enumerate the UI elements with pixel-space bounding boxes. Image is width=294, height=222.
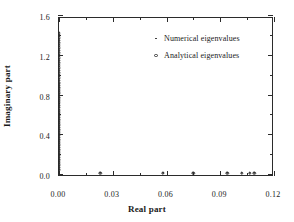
legend-item: Analytical eigenvalues: [148, 47, 268, 64]
x-tick-label: 0.09: [212, 190, 227, 199]
data-point: [253, 171, 256, 174]
legend-dot-icon: [148, 38, 164, 40]
x-tick-minor: [86, 173, 87, 176]
y-tick-major: [58, 134, 63, 135]
y-axis-label: Imaginary part: [2, 65, 12, 127]
data-point: [226, 171, 229, 174]
data-point: [99, 171, 102, 174]
y-tick-label: 0.0: [26, 172, 50, 181]
y-tick-label: 0.4: [26, 132, 50, 141]
x-tick-major: [274, 171, 275, 176]
y-tick-minor: [58, 114, 61, 115]
y-tick-minor: [58, 154, 61, 155]
y-tick-major: [268, 134, 273, 135]
x-tick-minor: [193, 17, 194, 20]
data-point: [240, 171, 243, 174]
y-tick-minor: [58, 75, 61, 76]
x-tick-major: [113, 17, 114, 22]
x-tick-major: [113, 171, 114, 176]
x-tick-minor: [193, 173, 194, 176]
y-tick-minor: [270, 35, 273, 36]
data-point: [161, 171, 164, 174]
x-tick-major: [167, 171, 168, 176]
y-tick-major: [268, 15, 273, 16]
y-tick-minor: [270, 75, 273, 76]
x-tick-minor: [86, 17, 87, 20]
y-tick-major: [58, 15, 63, 16]
y-tick-major: [58, 95, 63, 96]
legend-item: Numerical eigenvalues: [148, 30, 268, 47]
x-tick-major: [274, 17, 275, 22]
legend-circle-icon: [148, 54, 164, 58]
y-tick-minor: [270, 114, 273, 115]
x-tick-minor: [247, 17, 248, 20]
x-tick-label: 0.03: [104, 190, 119, 199]
legend-label: Analytical eigenvalues: [164, 51, 239, 60]
x-tick-minor: [247, 173, 248, 176]
x-tick-major: [220, 17, 221, 22]
y-tick-label: 1.6: [26, 13, 50, 22]
y-tick-minor: [270, 154, 273, 155]
x-tick-minor: [140, 17, 141, 20]
data-point: [248, 171, 251, 174]
legend-label: Numerical eigenvalues: [164, 34, 240, 43]
x-tick-major: [59, 17, 60, 22]
x-tick-label: 0.00: [51, 190, 66, 199]
y-tick-major: [58, 174, 63, 175]
y-tick-major: [268, 55, 273, 56]
y-tick-major: [268, 95, 273, 96]
x-tick-major: [220, 171, 221, 176]
x-tick-minor: [140, 173, 141, 176]
y-tick-label: 1.2: [26, 52, 50, 61]
y-tick-label: 0.8: [26, 92, 50, 101]
x-tick-label: 0.06: [158, 190, 173, 199]
y-tick-major: [268, 174, 273, 175]
y-tick-major: [58, 55, 63, 56]
eigenvalue-scatter-figure: 0.000.030.060.090.120.00.40.81.21.6 Real…: [0, 0, 294, 222]
y-tick-minor: [58, 35, 61, 36]
marker-glyph: [155, 38, 157, 40]
x-tick-major: [167, 17, 168, 22]
x-axis-label: Real part: [0, 204, 294, 214]
marker-glyph: [154, 54, 158, 58]
chart-legend: Numerical eigenvaluesAnalytical eigenval…: [148, 30, 268, 64]
x-tick-label: 0.12: [266, 190, 281, 199]
